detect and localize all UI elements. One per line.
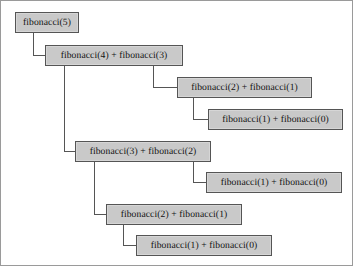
tree-node: fibonacci(1) + fibonacci(0) bbox=[208, 109, 343, 130]
tree-node: fibonacci(4) + fibonacci(3) bbox=[45, 45, 183, 66]
connector-n3-n4 bbox=[193, 98, 208, 119]
tree-node: fibonacci(2) + fibonacci(1) bbox=[177, 77, 312, 98]
tree-node-label: fibonacci(1) + fibonacci(0) bbox=[149, 241, 260, 251]
tree-node: fibonacci(2) + fibonacci(1) bbox=[106, 204, 242, 225]
tree-node-label: fibonacci(5) bbox=[21, 18, 73, 28]
tree-node-root: fibonacci(5) bbox=[15, 12, 79, 33]
tree-node: fibonacci(1) + fibonacci(0) bbox=[136, 235, 272, 256]
tree-node-label: fibonacci(4) + fibonacci(3) bbox=[59, 51, 170, 61]
tree-node: fibonacci(1) + fibonacci(0) bbox=[206, 172, 342, 193]
tree-node-label: fibonacci(1) + fibonacci(0) bbox=[220, 115, 331, 125]
connector-n5-n7 bbox=[94, 162, 106, 214]
tree-node-label: fibonacci(1) + fibonacci(0) bbox=[219, 178, 330, 188]
recursion-tree-diagram: fibonacci(5) fibonacci(4) + fibonacci(3)… bbox=[0, 0, 353, 266]
connector-n2-n5 bbox=[64, 66, 75, 151]
tree-node-label: fibonacci(2) + fibonacci(1) bbox=[119, 210, 230, 220]
connector-layer bbox=[1, 1, 353, 266]
tree-node-label: fibonacci(2) + fibonacci(1) bbox=[189, 83, 300, 93]
connector-n5-n6 bbox=[193, 162, 206, 182]
connector-n7-n8 bbox=[123, 225, 136, 245]
tree-node: fibonacci(3) + fibonacci(2) bbox=[75, 141, 211, 162]
tree-node-label: fibonacci(3) + fibonacci(2) bbox=[88, 147, 199, 157]
connector-n2-n3 bbox=[153, 66, 177, 87]
connector-n1-n2 bbox=[33, 33, 45, 55]
